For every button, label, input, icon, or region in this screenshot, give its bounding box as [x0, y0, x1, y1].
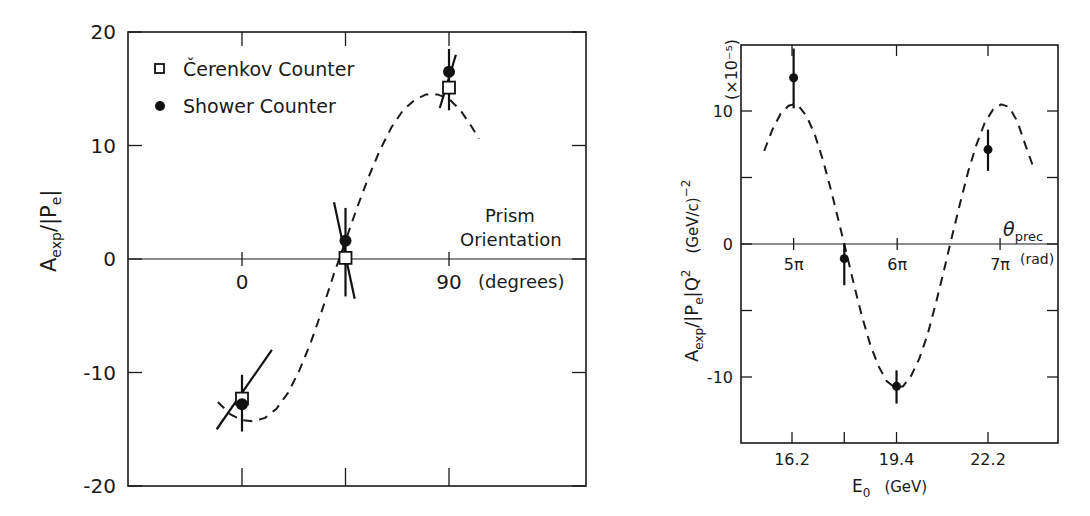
y-tick-label: 0: [103, 247, 116, 271]
left-x-label-line2: Orientation: [460, 229, 562, 250]
theta-tick-label: 6π: [887, 255, 907, 274]
theta-tick-label: 5π: [784, 255, 804, 274]
y-tick-label: -10: [707, 368, 733, 387]
x-tick-label: 16.2: [774, 450, 810, 469]
legend-filled-circle-icon: [155, 101, 165, 111]
shower-point-dot: [236, 398, 248, 410]
y-tick-label: 0: [723, 235, 733, 254]
data-point-dot: [789, 73, 798, 82]
right-data-points: [789, 48, 992, 403]
figure: -20-1001020 090 Čerenkov Counter Shower …: [0, 0, 1090, 516]
y-tick-label: -10: [83, 361, 116, 385]
left-x-unit: (degrees): [478, 271, 565, 292]
right-y-label: Aexp/|Pe|Q2(GeV/c)−2: [679, 180, 706, 362]
x-tick-label: 0: [236, 270, 249, 294]
left-x-label-line1: Prism: [485, 205, 535, 226]
y-tick-label: 10: [713, 102, 733, 121]
theta-unit-label: (rad): [1020, 251, 1054, 267]
left-y-label: Aexp/|Pe|: [37, 190, 64, 272]
legend-label-cerenkov: Čerenkov Counter: [183, 57, 354, 80]
legend-label-shower: Shower Counter: [183, 95, 336, 117]
x-tick-label: 22.2: [970, 450, 1006, 469]
right-x-label: E0(GeV): [852, 476, 927, 500]
right-theta-axis-ticks: 5π6π7π: [784, 238, 1011, 274]
right-fit-curve: [764, 104, 1033, 387]
right-chart-panel: -10010 16.219.422.2 5π6π7π θprec (rad) E…: [679, 39, 1058, 500]
y-tick-label: 10: [91, 134, 116, 158]
slanted-error-bar: [334, 202, 355, 298]
theta-tick-label: 7π: [990, 255, 1010, 274]
left-legend: Čerenkov Counter Shower Counter: [155, 57, 354, 117]
theta-prec-label: θprec: [1003, 218, 1043, 244]
left-chart-panel: -20-1001020 090 Čerenkov Counter Shower …: [37, 20, 586, 498]
shower-point-dot: [340, 235, 352, 247]
data-point-dot: [840, 254, 849, 263]
svg-text:Aexp/|Pe|: Aexp/|Pe|: [37, 190, 64, 272]
cerenkov-point-square: [443, 82, 455, 94]
svg-text:(×10⁻⁵): (×10⁻⁵): [722, 39, 741, 100]
shower-point-dot: [443, 66, 455, 78]
right-y-scale-label: (×10⁻⁵): [722, 39, 741, 100]
x-tick-label: 90: [436, 270, 461, 294]
cerenkov-point-square: [340, 252, 352, 264]
y-tick-label: -20: [83, 474, 116, 498]
x-tick-label: 19.4: [879, 450, 915, 469]
svg-text:Aexp/|Pe|Q2(GeV/c)−2: Aexp/|Pe|Q2(GeV/c)−2: [679, 180, 706, 362]
legend-open-square-icon: [155, 64, 164, 73]
chart-svg: -20-1001020 090 Čerenkov Counter Shower …: [0, 0, 1090, 516]
data-point-dot: [892, 382, 901, 391]
data-point-dot: [984, 145, 993, 154]
y-tick-label: 20: [91, 20, 116, 44]
